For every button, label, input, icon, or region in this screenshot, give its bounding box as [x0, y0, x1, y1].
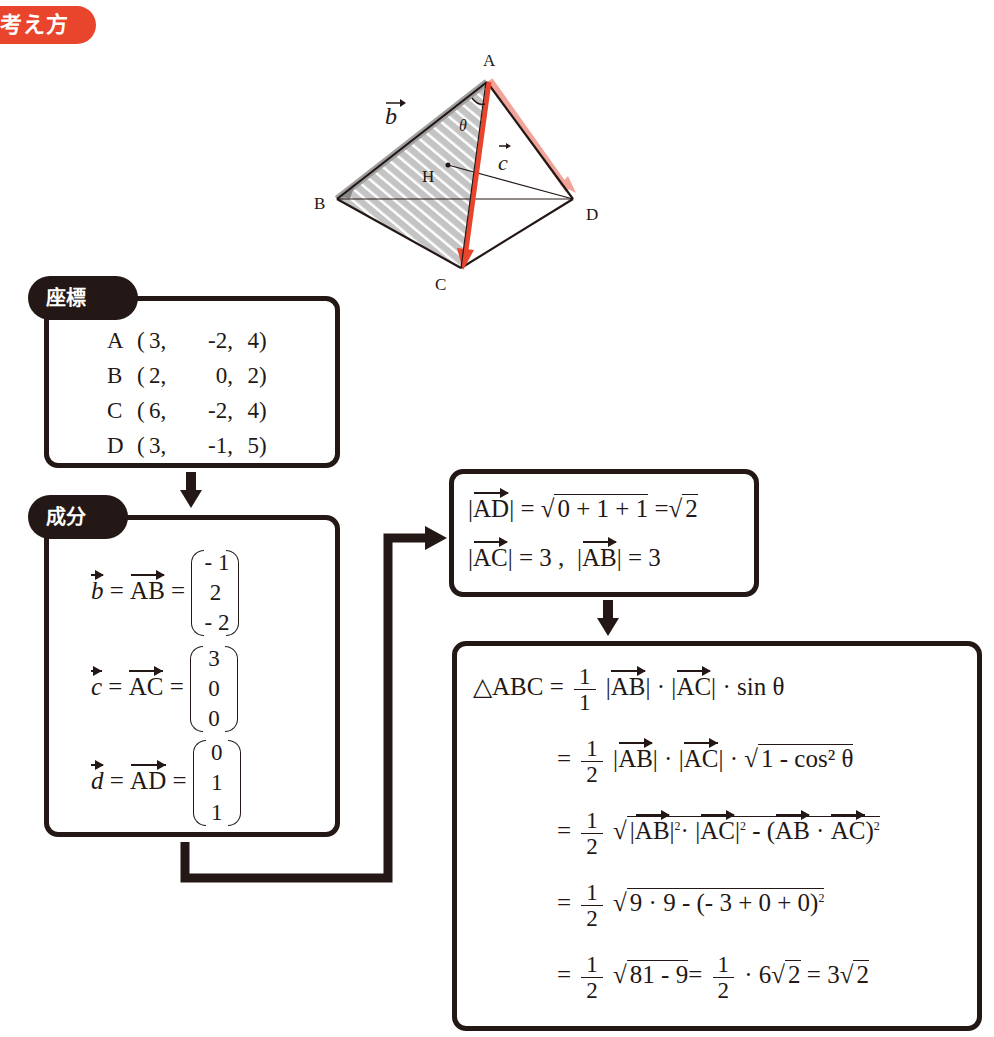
- svg-text:A: A: [483, 51, 496, 70]
- coord-row: A(3,-2,4): [107, 323, 267, 358]
- down-arrow-icon: [180, 472, 202, 510]
- area-line-2: = 12 |AB| · |AC| · √1 - cos² θ: [557, 736, 853, 787]
- approach-badge: 考え方: [0, 6, 96, 44]
- components-tag: 成分: [28, 495, 128, 539]
- area-line-5: = 12 √81 - 9= 12 · 6√2 = 3√2: [557, 952, 869, 1003]
- magnitude-box: |AD| = √0 + 1 + 1 =√2 |AC| = 3 , |AB| = …: [449, 469, 759, 597]
- tetrahedron-figure: A B C D H b θ c: [300, 40, 620, 300]
- area-line-4: = 12 √9 · 9 - (- 3 + 0 + 0)2: [557, 880, 824, 931]
- connector-arrow-icon: [175, 520, 450, 890]
- coord-row: B(2,0,2): [107, 358, 267, 393]
- area-line-3: = 12 √|AB|2· |AC|2 - (AB · AC)2: [557, 808, 880, 859]
- down-arrow-icon: [597, 600, 619, 638]
- svg-text:C: C: [435, 275, 446, 294]
- coordinates-box: A(3,-2,4) B(2,0,2) C(6,-2,4) D(3,-1,5): [44, 296, 340, 468]
- coordinates-tag: 座標: [28, 276, 138, 320]
- svg-text:H: H: [422, 167, 434, 186]
- svg-text:D: D: [586, 205, 598, 224]
- coord-row: D(3,-1,5): [107, 428, 267, 463]
- svg-text:θ: θ: [459, 117, 467, 134]
- svg-text:c: c: [498, 150, 508, 175]
- svg-text:b: b: [385, 103, 397, 129]
- magnitude-ac-ab: |AC| = 3 , |AB| = 3: [468, 544, 661, 572]
- svg-text:B: B: [314, 194, 325, 213]
- coord-row: C(6,-2,4): [107, 393, 267, 428]
- magnitude-ad: |AD| = √0 + 1 + 1 =√2: [468, 494, 698, 523]
- area-box: △ABC = 11 |AB| · |AC| · sin θ = 12 |AB| …: [452, 641, 982, 1031]
- area-line-1: △ABC = 11 |AB| · |AC| · sin θ: [473, 664, 784, 715]
